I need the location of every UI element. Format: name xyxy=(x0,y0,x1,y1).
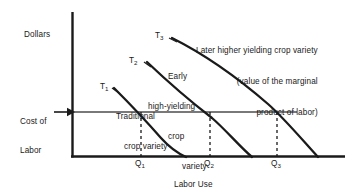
right-arrow-icon xyxy=(67,108,75,116)
annotation-t3-line2: (value of the marginal xyxy=(196,77,318,87)
annotation-t3-line1: Later higher yielding crop variety xyxy=(196,46,318,56)
curve-label-t2: T2 xyxy=(129,56,138,66)
tick-label-q2-sub: 2 xyxy=(210,162,214,169)
curve-label-t3: T3 xyxy=(155,31,164,41)
y-axis-label: Dollars xyxy=(24,30,50,40)
annotation-t3: Later higher yielding crop variety (valu… xyxy=(196,25,318,139)
cost-of-labor-label-line1: Cost of xyxy=(20,117,47,127)
tick-label-q1: Q1 xyxy=(135,159,145,169)
economics-chart-figure: Dollars Labor Use Cost of Labor T1 T2 T3… xyxy=(0,0,363,196)
curve-label-t2-sub: 2 xyxy=(134,59,138,66)
tick-label-q3-sub: 3 xyxy=(277,162,281,169)
annotation-t3-line3: product of labor) xyxy=(196,108,318,118)
tick-label-q1-sub: 1 xyxy=(141,162,145,169)
cost-of-labor-label-line2: Labor xyxy=(20,146,47,156)
curve-label-t3-sub: 3 xyxy=(160,34,164,41)
curve-label-t1-sub: 1 xyxy=(105,85,109,92)
tick-label-q3: Q3 xyxy=(271,159,281,169)
curve-label-t1: T1 xyxy=(100,82,109,92)
tick-label-q2: Q2 xyxy=(204,159,214,169)
annotation-t2-line4: variety xyxy=(148,162,207,172)
cost-of-labor-label: Cost of Labor xyxy=(20,98,47,175)
